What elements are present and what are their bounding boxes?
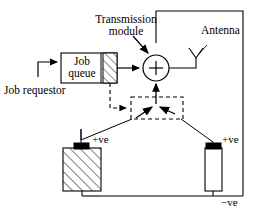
- left-battery-terminal-label: +ve: [92, 134, 109, 146]
- job-requestor-arrow: [38, 62, 57, 77]
- transmission-module-pointer: [133, 36, 148, 53]
- antenna-label: Antenna: [201, 24, 240, 36]
- left-battery[interactable]: [63, 143, 101, 196]
- right-battery-terminal-label: +ve: [222, 134, 239, 146]
- job-queue-label-line2: queue: [63, 67, 101, 79]
- transmission-module-label: Transmission module: [84, 13, 168, 37]
- negative-rail-label: −ve: [221, 197, 238, 209]
- job-queue-label: Job queue: [63, 55, 101, 79]
- switch-converging-arrows: [136, 107, 175, 118]
- diagram-canvas: Transmission module Antenna Job queue Jo…: [0, 0, 257, 218]
- summing-junction[interactable]: [143, 55, 169, 81]
- transmission-module-label-line2: module: [84, 25, 168, 37]
- job-requestor-label: Job requestor: [4, 84, 66, 96]
- queue-control-dashed-line: [110, 83, 126, 108]
- antenna-leader-line: [198, 45, 207, 55]
- job-queue-label-line1: Job: [63, 55, 101, 67]
- sum-to-antenna-wire: [169, 58, 196, 68]
- antenna-symbol: [189, 48, 203, 58]
- transmission-module-label-line1: Transmission: [84, 13, 168, 25]
- right-battery[interactable]: [205, 142, 222, 196]
